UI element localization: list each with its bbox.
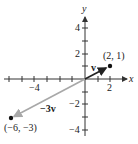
point-neg6-neg3: (−6, −3) [4, 116, 37, 134]
vector-diagram: x −4 2 y 4 2 −2 −4 −3v v (2, 1) [0, 0, 138, 144]
y-axis-label: y [81, 3, 87, 14]
vector-v-label: v [91, 62, 96, 73]
point-2-1-label: (2, 1) [103, 50, 125, 62]
y-tick-label-4: 4 [75, 22, 80, 33]
point-neg6-neg3-label: (−6, −3) [4, 122, 37, 134]
x-tick-label-neg4: −4 [29, 82, 40, 93]
point-2-1: (2, 1) [103, 50, 125, 68]
x-axis: x −4 2 [4, 73, 134, 93]
vector-neg3v-label: −3v [40, 103, 56, 114]
vector-v: v [85, 62, 106, 79]
x-tick-label-2: 2 [107, 82, 112, 93]
y-tick-label-2: 2 [75, 48, 80, 59]
y-tick-label-neg2: −2 [69, 98, 80, 109]
y-tick-label-neg4: −4 [69, 124, 80, 135]
y-axis: y 4 2 −2 −4 [69, 3, 88, 136]
x-axis-label: x [128, 73, 134, 84]
